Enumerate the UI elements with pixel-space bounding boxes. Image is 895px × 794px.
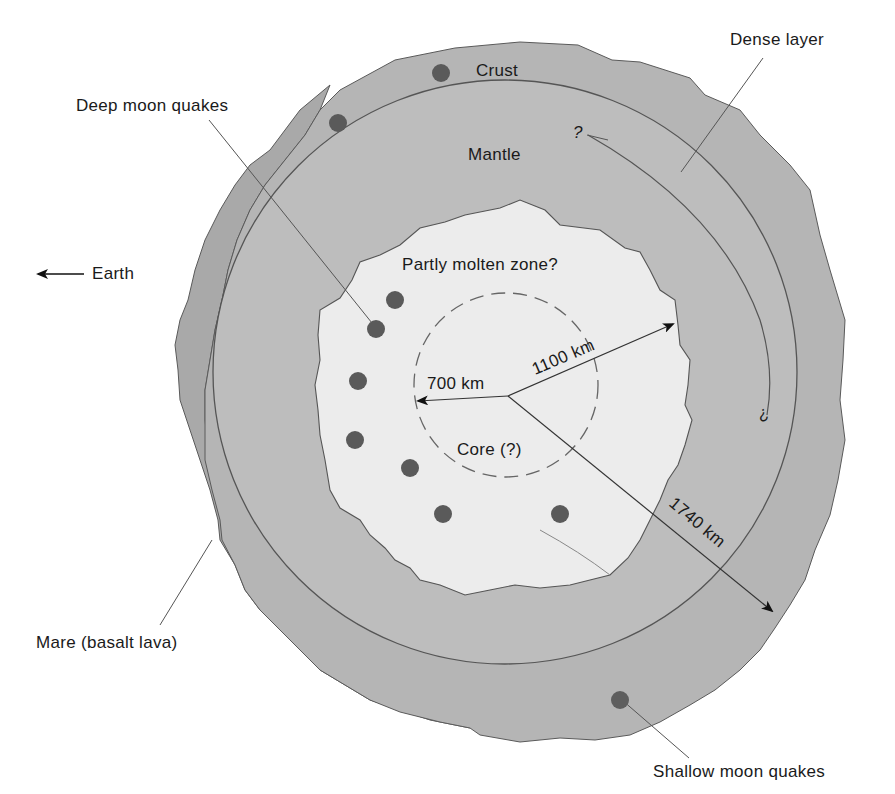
label-dense-layer: Dense layer bbox=[730, 30, 824, 50]
moon-structure-diagram: 1100 km 1740 km ? bbox=[0, 0, 895, 794]
deep-quake-dot bbox=[349, 372, 367, 390]
shallow-quake-dot bbox=[432, 64, 450, 82]
label-earth: Earth bbox=[92, 264, 134, 284]
deep-quake-dot bbox=[346, 431, 364, 449]
leader-mare bbox=[160, 540, 212, 625]
deep-quake-dot bbox=[367, 320, 385, 338]
label-mare: Mare (basalt lava) bbox=[36, 633, 177, 653]
shallow-quake-dot bbox=[329, 114, 347, 132]
deep-quake-dot bbox=[434, 505, 452, 523]
label-core: Core (?) bbox=[457, 440, 522, 460]
label-mantle: Mantle bbox=[468, 145, 521, 165]
label-shallow-moon-quakes: Shallow moon quakes bbox=[653, 762, 825, 782]
deep-quake-dot bbox=[386, 291, 404, 309]
label-partly-molten-zone: Partly molten zone? bbox=[402, 255, 558, 275]
label-radius-700km: 700 km bbox=[427, 374, 485, 394]
deep-quake-dot bbox=[401, 459, 419, 477]
label-deep-moon-quakes: Deep moon quakes bbox=[76, 96, 228, 116]
label-question-top: ? bbox=[573, 123, 583, 143]
label-crust: Crust bbox=[476, 61, 518, 81]
shallow-quake-dot bbox=[611, 691, 629, 709]
deep-quake-dot bbox=[551, 505, 569, 523]
